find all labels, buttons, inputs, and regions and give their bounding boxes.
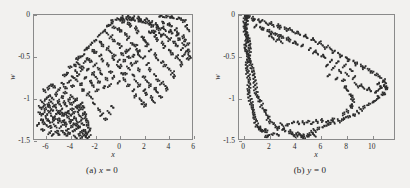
plot-area-b (238, 14, 395, 140)
x-tick-label: 10 (368, 142, 376, 151)
x-tick (120, 136, 121, 139)
y-tick (239, 57, 242, 58)
y-tick-label: 0 (0, 10, 30, 19)
x-tick-label: 2 (142, 142, 146, 151)
caption-a-equals: = 0 (106, 165, 118, 175)
scatter-plot-a (34, 15, 192, 139)
x-tick (194, 136, 195, 139)
x-tick-label: 4 (167, 142, 171, 151)
x-tick (373, 136, 374, 139)
y-axis-title-a: w (8, 74, 17, 79)
x-tick-label: -4 (67, 142, 73, 151)
y-tick (34, 15, 37, 16)
y-axis-title-b: w (213, 74, 222, 79)
x-tick (145, 136, 146, 139)
caption-b: (b) y = 0 (294, 165, 327, 175)
caption-a: (a) x = 0 (86, 165, 118, 175)
x-tick-label: 8 (344, 142, 348, 151)
y-tick-label: -1.5 (205, 136, 235, 145)
x-tick-label: -2 (91, 142, 97, 151)
scatter-plot-b (239, 15, 394, 139)
y-tick (34, 99, 37, 100)
y-tick (239, 15, 242, 16)
caption-a-index: (a) (86, 165, 97, 175)
y-tick-label: -1.5 (0, 136, 30, 145)
y-tick (34, 57, 37, 58)
caption-b-index: (b) (294, 165, 305, 175)
y-tick-label: -1 (0, 94, 30, 103)
x-tick-label: 0 (241, 142, 245, 151)
y-tick-label: -0.5 (205, 52, 235, 61)
x-tick (296, 136, 297, 139)
x-tick-label: 4 (293, 142, 297, 151)
x-tick-label: 2 (267, 142, 271, 151)
x-axis-title-b: x (314, 150, 318, 159)
y-tick (239, 99, 242, 100)
x-tick-label: 6 (318, 142, 322, 151)
x-tick (46, 136, 47, 139)
x-tick (71, 136, 72, 139)
caption-a-variable: x (99, 165, 103, 175)
plot-area-a (33, 14, 193, 140)
x-tick (169, 136, 170, 139)
y-tick-label: 0 (205, 10, 235, 19)
x-tick (321, 136, 322, 139)
x-tick-label: -6 (42, 142, 48, 151)
x-tick (244, 136, 245, 139)
x-tick-label: 0 (117, 142, 121, 151)
panel-a: -6-4-20246 0-0.5-1-1.5 x w (a) x = 0 (0, 0, 205, 188)
y-tick-label: -1 (205, 94, 235, 103)
y-tick (34, 141, 37, 142)
panel-b: 0246810 0-0.5-1-1.5 x w (b) y = 0 (205, 0, 410, 188)
x-tick (270, 136, 271, 139)
x-axis-title-a: x (111, 150, 115, 159)
caption-b-variable: y (307, 165, 311, 175)
x-tick (96, 136, 97, 139)
caption-b-equals: = 0 (314, 165, 326, 175)
figure-container: -6-4-20246 0-0.5-1-1.5 x w (a) x = 0 024… (0, 0, 410, 188)
y-tick-label: -0.5 (0, 52, 30, 61)
x-tick-label: 6 (191, 142, 195, 151)
x-tick (347, 136, 348, 139)
